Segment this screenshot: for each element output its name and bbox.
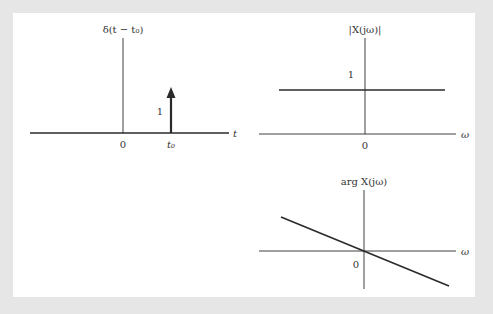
omega-axis-label: ω bbox=[461, 129, 469, 140]
t-axis-label: t bbox=[233, 128, 238, 139]
phase-plot: arg X(jω) ω 0 bbox=[259, 176, 469, 289]
magnitude-plot: |X(jω)| ω 0 1 bbox=[259, 24, 469, 151]
omega-axis-label: ω bbox=[461, 246, 469, 257]
magnitude-title: |X(jω)| bbox=[349, 24, 382, 36]
impulse-arrow-icon bbox=[167, 87, 176, 98]
phase-title: arg X(jω) bbox=[341, 176, 388, 187]
t0-label: t₀ bbox=[167, 139, 175, 150]
origin-label: 0 bbox=[120, 139, 126, 150]
level-label: 1 bbox=[348, 69, 354, 80]
impulse-weight-label: 1 bbox=[157, 106, 163, 117]
impulse-plot: δ(t − t₀) t 0 t₀ 1 bbox=[30, 24, 238, 150]
figure-svg: δ(t − t₀) t 0 t₀ 1 |X(jω)| ω 0 1 arg X(j… bbox=[0, 0, 493, 314]
phase-line bbox=[281, 217, 449, 286]
impulse-title: δ(t − t₀) bbox=[103, 24, 144, 35]
origin-label: 0 bbox=[353, 259, 359, 270]
origin-label: 0 bbox=[362, 140, 368, 151]
